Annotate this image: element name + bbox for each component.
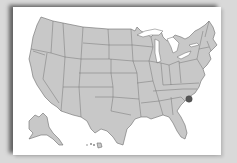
us-map [13,7,221,155]
location-dot-icon[interactable] [186,96,192,102]
map-card [13,7,221,155]
contiguous-us-shape [29,17,217,145]
alaska-shape [29,113,63,145]
hawaii-shape [86,143,102,148]
